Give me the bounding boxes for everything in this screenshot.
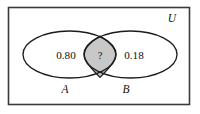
set-b-label: B — [122, 83, 129, 95]
set-a-only-probability: 0.80 — [56, 49, 76, 61]
venn-diagram-canvas: U 0.80 0.18 ? A B — [0, 0, 200, 114]
venn-diagram-figure: U 0.80 0.18 ? A B — [0, 0, 200, 114]
universal-set-label: U — [168, 12, 177, 24]
set-b-only-probability: 0.18 — [124, 49, 144, 61]
set-a-label: A — [60, 83, 69, 95]
intersection-unknown-label: ? — [98, 50, 103, 61]
